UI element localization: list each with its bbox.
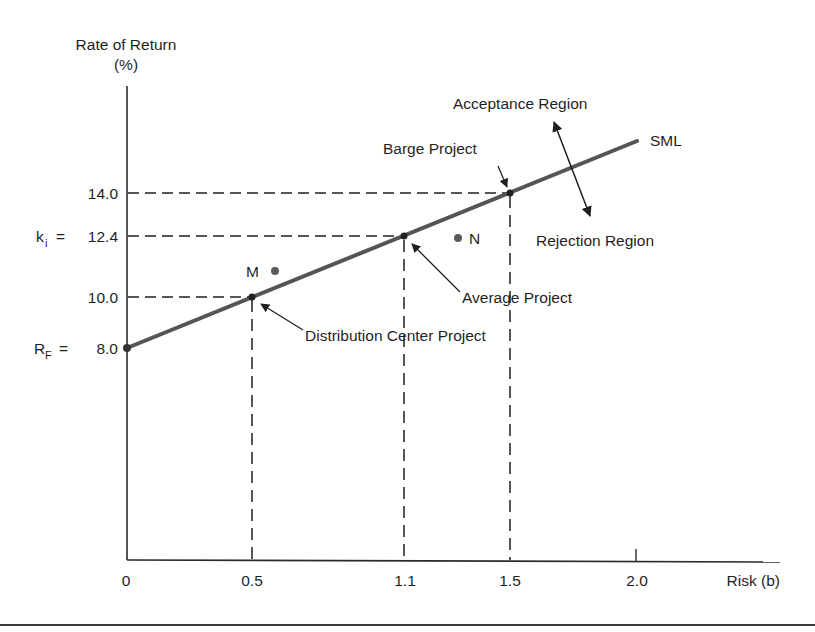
horizontal-guides	[128, 193, 510, 297]
y-axis-title-line2: (%)	[114, 56, 138, 73]
rejection-region-label: Rejection Region	[536, 232, 654, 249]
y-tick-rf-r: R	[34, 340, 45, 357]
vertical-guides	[252, 196, 510, 560]
y-tick-10-0: 10.0	[88, 289, 119, 306]
barge-project-label: Barge Project	[383, 140, 478, 157]
average-arrow-icon	[412, 244, 460, 292]
acceptance-region-label: Acceptance Region	[453, 95, 587, 112]
x-tick-2-0: 2.0	[626, 572, 648, 589]
x-axis-title: Risk (b)	[727, 572, 780, 589]
distribution-center-point	[249, 294, 256, 301]
bottom-rule-divider	[0, 624, 815, 626]
label-m: M	[246, 263, 259, 280]
label-n: N	[469, 230, 480, 247]
x-tick-0-5: 0.5	[241, 572, 263, 589]
acceptance-rejection-arrow-icon	[554, 122, 590, 216]
y-tick-ki-sub: i	[45, 237, 47, 249]
rf-point	[123, 344, 131, 352]
point-n	[454, 234, 462, 242]
y-tick-rf-eq: =	[59, 340, 68, 357]
barge-arrow-icon	[498, 166, 507, 187]
barge-project-point	[507, 190, 514, 197]
y-tick-rf-sub: F	[45, 349, 52, 361]
sml-chart: Rate of Return (%) M N SML Acceptance Re…	[0, 0, 815, 632]
x-tick-1-1: 1.1	[394, 572, 416, 589]
sml-label: SML	[650, 132, 682, 149]
y-tick-12-4: 12.4	[88, 228, 119, 245]
y-tick-ki-k: k	[36, 228, 44, 245]
distribution-center-label: Distribution Center Project	[305, 327, 487, 344]
x-tick-1-5: 1.5	[499, 572, 521, 589]
y-axis-title-line1: Rate of Return	[76, 36, 177, 53]
x-axis	[127, 560, 780, 562]
y-tick-ki-eq: =	[56, 228, 65, 245]
average-project-point	[401, 233, 408, 240]
point-m	[271, 267, 279, 275]
y-tick-14-0: 14.0	[88, 185, 119, 202]
average-project-label: Average Project	[462, 289, 573, 306]
x-tick-0: 0	[122, 572, 131, 589]
y-tick-8-0: 8.0	[96, 340, 118, 357]
distribution-arrow-icon	[261, 304, 303, 330]
